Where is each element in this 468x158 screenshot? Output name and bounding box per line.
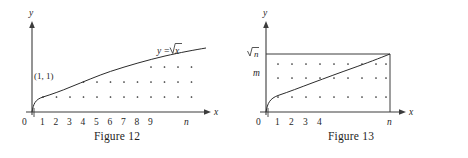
x-tick-5: 5	[94, 117, 99, 127]
y-axis-label: y	[262, 8, 268, 18]
x-tick-6: 6	[108, 117, 113, 127]
x-axis-figure-13	[260, 109, 406, 114]
lattice-dots-row-2	[277, 77, 387, 79]
y-axis-figure-13	[263, 21, 269, 115]
x-tick-4: 4	[317, 117, 322, 127]
lattice-dots-row-2	[83, 81, 193, 83]
y-axis-figure-12	[29, 21, 35, 115]
curve-label-figure-12: y = x	[156, 44, 182, 57]
sqrt-curve-figure-13	[266, 54, 390, 112]
origin-label: 0	[22, 117, 27, 127]
x-axis-figure-12	[26, 109, 211, 114]
x-tick-4: 4	[81, 117, 86, 127]
x-tick-2: 2	[289, 117, 294, 127]
x-tick-n: n	[387, 117, 392, 127]
x-axis-label: x	[213, 107, 219, 117]
figure-13-plot: y x 0 m n m 1 2 3 4 n	[234, 0, 468, 130]
figure-12-panel: y x 0 1 2 3 4 5 6 7 8 9 n	[0, 0, 234, 158]
x-tick-n: n	[184, 117, 189, 127]
figure-12-caption: Figure 12	[0, 130, 234, 142]
lattice-dots-row-3	[277, 63, 387, 65]
y-tick-m: m	[253, 68, 260, 78]
lattice-dots-row-1	[277, 96, 387, 98]
y-axis-label: y	[28, 8, 34, 18]
x-tick-3: 3	[67, 117, 72, 127]
x-tick-9: 9	[148, 117, 153, 127]
y-tick-sqrt-n: m n	[248, 48, 260, 60]
figure-13-caption: Figure 13	[234, 130, 468, 142]
x-tick-1: 1	[275, 117, 280, 127]
bounding-box-figure-13	[266, 54, 390, 112]
svg-text:n: n	[254, 49, 259, 59]
x-tick-8: 8	[135, 117, 140, 127]
x-tick-3: 3	[303, 117, 308, 127]
figure-13-panel: y x 0 m n m 1 2 3 4 n	[234, 0, 468, 158]
x-tick-2: 2	[54, 117, 59, 127]
figure-12-plot: y x 0 1 2 3 4 5 6 7 8 9 n	[0, 0, 234, 130]
sqrt-curve-figure-12	[32, 48, 206, 112]
svg-text:y =: y =	[156, 46, 170, 56]
figures-page: y x 0 1 2 3 4 5 6 7 8 9 n	[0, 0, 468, 158]
x-tick-1: 1	[40, 117, 45, 127]
lattice-dots-row-1	[42, 96, 192, 98]
origin-label: 0	[256, 117, 261, 127]
x-tick-7: 7	[121, 117, 126, 127]
lattice-dots-row-3	[150, 66, 192, 68]
point-1-1-label: (1, 1)	[34, 71, 54, 81]
x-axis-label: x	[408, 107, 414, 117]
svg-text:x: x	[174, 46, 180, 56]
